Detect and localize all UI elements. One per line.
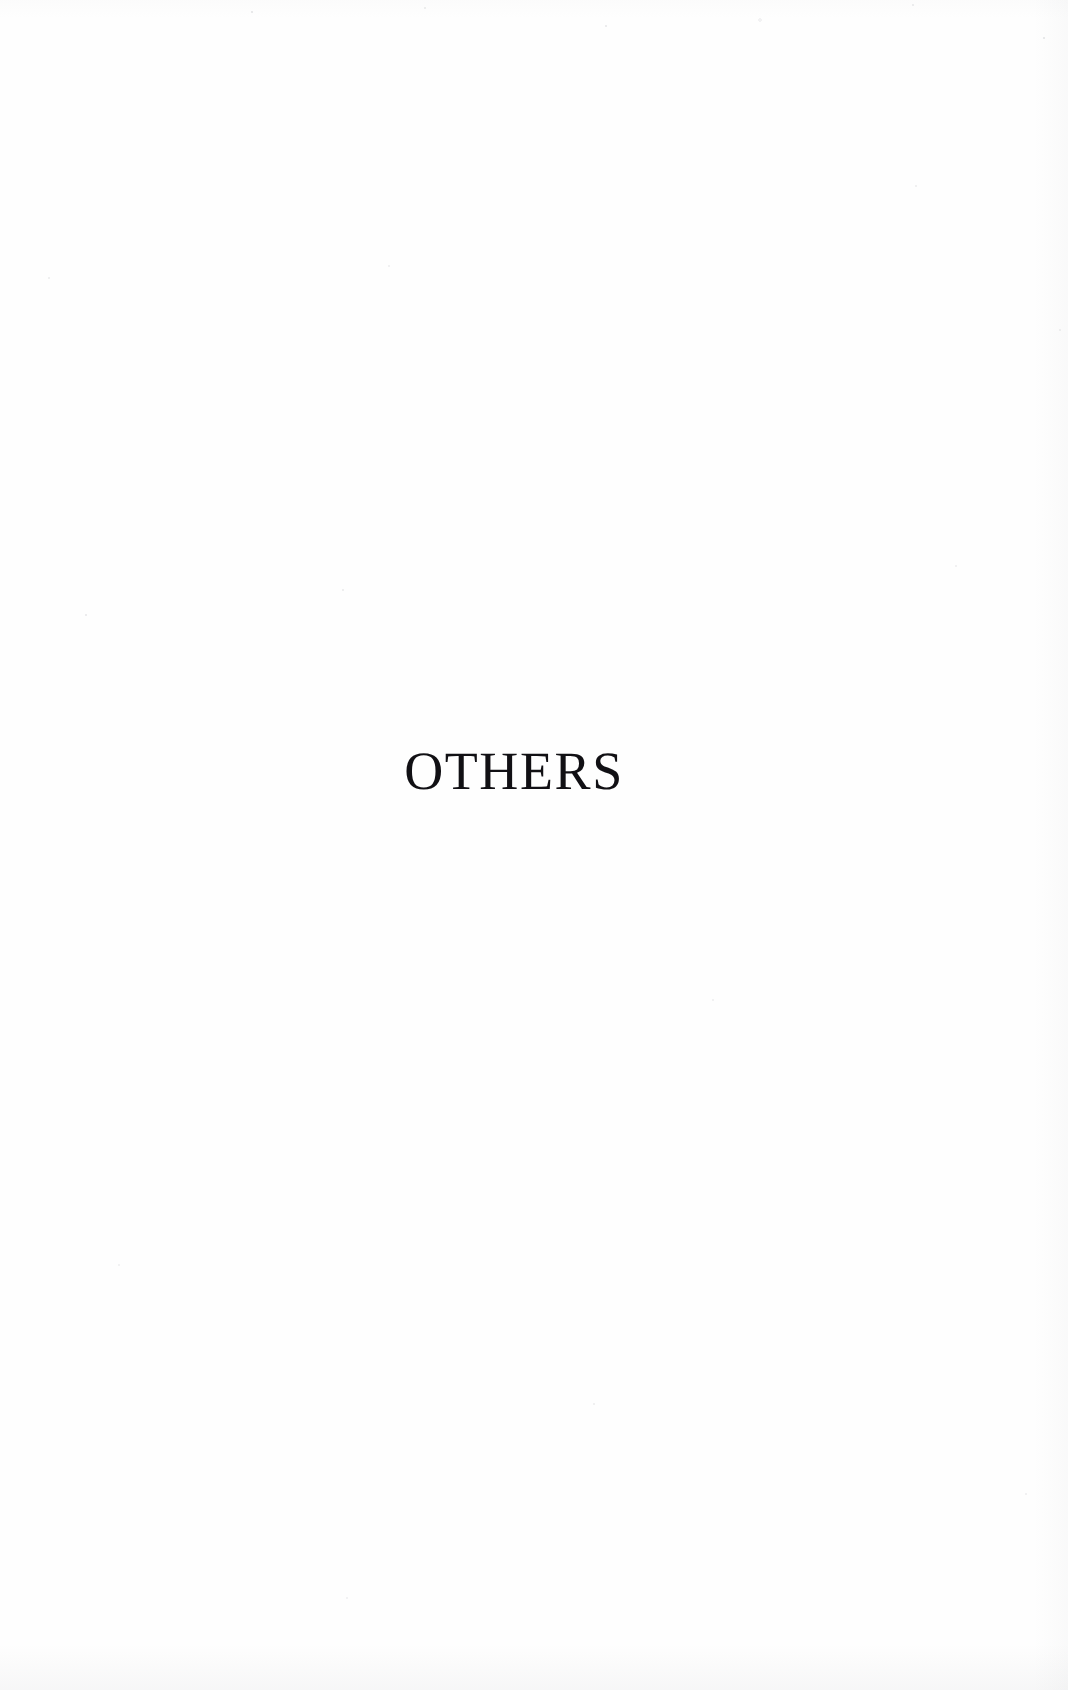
book-page: OTHERS [0, 0, 1068, 1690]
section-divider-title: OTHERS [0, 716, 1028, 826]
paper-tone-overlay [0, 0, 1068, 1690]
scan-speckle-overlay [0, 0, 1068, 1690]
